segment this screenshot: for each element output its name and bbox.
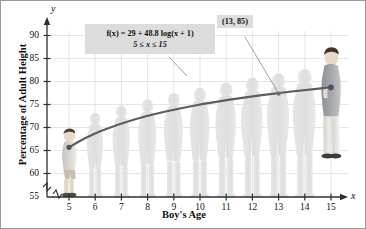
y-axis-name: y <box>51 3 55 14</box>
figure-container: 90 85 80 75 70 65 60 55 5 6 7 8 9 10 11 … <box>0 0 366 229</box>
curve-point-end <box>328 85 334 91</box>
curve-point-start <box>66 145 71 150</box>
x-axis-name: x <box>351 190 355 201</box>
formula-line-2: 5 ≤ x ≤ 15 <box>89 39 211 50</box>
y-axis-title: Percentage of Adult Height <box>17 30 28 180</box>
point-annotation-label: (13, 85) <box>217 15 253 28</box>
formula-line-1: f(x) = 29 + 48.8 log(x + 1) <box>89 28 211 39</box>
y-tick-label-55: 55 <box>13 191 39 201</box>
x-axis-arrow <box>340 194 348 200</box>
curve-point-13-85 <box>277 92 281 96</box>
formula-callout: f(x) = 29 + 48.8 log(x + 1) 5 ≤ x ≤ 15 <box>85 24 215 54</box>
x-axis-title: Boy's Age <box>1 209 366 220</box>
axis-break-symbol <box>43 183 51 191</box>
formula-leader-line <box>169 57 187 76</box>
teen-figure <box>321 47 341 158</box>
y-axis-arrow <box>44 17 50 25</box>
